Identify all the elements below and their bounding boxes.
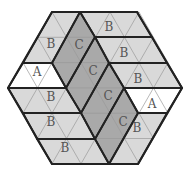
piece-label: B: [133, 121, 142, 135]
piece-label: B: [105, 20, 114, 34]
piece-label: C: [103, 89, 112, 103]
piece-label: C: [74, 38, 83, 52]
piece-label: B: [61, 141, 70, 155]
piece-label: B: [47, 37, 56, 51]
piece-label: B: [120, 46, 129, 60]
piece-label: A: [32, 65, 42, 79]
hexagon-tiling: BABBBCCCCBBBAB: [0, 0, 189, 176]
piece-label: B: [47, 115, 56, 129]
piece-label: C: [88, 64, 97, 78]
piece-label: A: [147, 97, 157, 111]
hexagon-diagram: BABBBCCCCBBBAB: [0, 0, 189, 176]
piece-label: B: [47, 90, 56, 104]
piece-label: B: [134, 72, 143, 86]
piece-label: C: [118, 115, 127, 129]
